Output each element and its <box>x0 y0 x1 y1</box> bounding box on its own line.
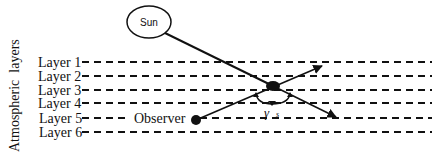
axis-label: Atmospheric layers <box>7 39 22 152</box>
atmospheric-layers-diagram: Atmospheric layers Layer 1 Layer 2 Layer… <box>0 0 439 164</box>
layer-2-label: Layer 2 <box>38 69 81 84</box>
layer-6-label: Layer 6 <box>39 125 82 140</box>
angle-label-gamma: γ <box>264 105 270 120</box>
angle-label-subscript: s <box>276 110 279 119</box>
line-of-sight-arrow <box>196 66 322 120</box>
scattering-point-icon <box>266 81 280 91</box>
observer-point-icon <box>191 115 201 125</box>
sun-label: Sun <box>140 17 158 28</box>
sun-ray-line <box>165 33 273 86</box>
layer-4-label: Layer 4 <box>38 96 81 111</box>
observer-label: Observer <box>134 111 186 126</box>
layer-1-label: Layer 1 <box>38 55 81 70</box>
layer-5-label: Layer 5 <box>39 111 82 126</box>
